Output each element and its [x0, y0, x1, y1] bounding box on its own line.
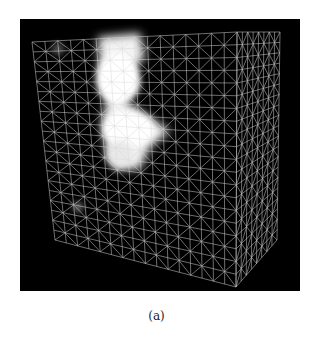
mesh-grid — [32, 32, 280, 287]
figure-caption: (a) — [0, 309, 313, 323]
render-panel — [20, 19, 300, 291]
mesh-cube-render — [20, 19, 300, 291]
figure: (a) — [0, 0, 313, 337]
